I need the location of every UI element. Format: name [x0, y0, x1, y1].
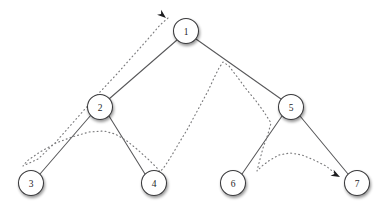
tree-diagram-svg: 1 2 5 3 4 6 [0, 0, 382, 218]
tree-nodes-group: 1 2 5 3 4 6 [19, 19, 370, 196]
tree-node-5[interactable]: 5 [279, 95, 304, 120]
tree-node-3[interactable]: 3 [19, 171, 44, 196]
tree-node-4[interactable]: 4 [142, 171, 167, 196]
tree-node-6-label: 6 [231, 179, 236, 189]
tree-edge-2-to-3 [40, 115, 91, 174]
tree-node-7-label: 7 [355, 179, 360, 189]
tree-node-7[interactable]: 7 [345, 171, 370, 196]
tree-edge-1-to-2 [109, 40, 177, 99]
tree-node-4-label: 4 [152, 179, 157, 189]
tree-diagram-canvas: 1 2 5 3 4 6 [0, 0, 382, 218]
tree-node-2-label: 2 [98, 103, 103, 113]
tree-node-2[interactable]: 2 [88, 95, 113, 120]
tree-node-1[interactable]: 1 [174, 19, 199, 44]
tree-node-3-label: 3 [29, 179, 34, 189]
tree-node-1-label: 1 [184, 27, 189, 37]
tree-edge-2-to-4 [109, 116, 145, 174]
traversal-end-arrow-icon [330, 170, 341, 180]
tree-node-5-label: 5 [289, 103, 294, 113]
traversal-start-arrow-icon [157, 10, 168, 21]
tree-node-6[interactable]: 6 [221, 171, 246, 196]
